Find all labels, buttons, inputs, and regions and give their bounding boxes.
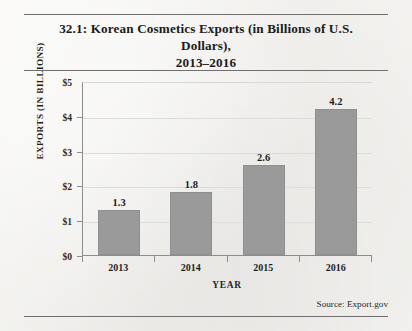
bar-2016[interactable] xyxy=(315,109,357,255)
figure-container: 32.1: Korean Cosmetics Exports (in Billi… xyxy=(0,0,412,331)
y-tick-label-3: $3 xyxy=(46,147,72,158)
title-rule-bottom xyxy=(24,70,388,71)
y-tick-label-2: $2 xyxy=(46,181,72,192)
y-tick-label-4: $4 xyxy=(46,112,72,123)
x-tick-label-2016: 2016 xyxy=(300,262,373,273)
x-axis-tick-labels: 2013 2014 2015 2016 xyxy=(82,262,372,273)
bar-slot-2013: 1.3 xyxy=(83,83,155,255)
bar-slot-2016: 4.2 xyxy=(300,83,372,255)
y-axis-title: EXPORTS (IN BILLIONS) xyxy=(35,21,45,181)
y-tick-label-1: $1 xyxy=(46,216,72,227)
bar-slot-2014: 1.8 xyxy=(155,83,227,255)
bar-slot-2015: 2.6 xyxy=(228,83,300,255)
x-tick-label-2014: 2014 xyxy=(155,262,228,273)
bar-series: 1.3 1.8 2.6 4.2 xyxy=(83,83,372,255)
bar-value-2015: 2.6 xyxy=(228,152,300,163)
title-rule-top xyxy=(24,14,388,15)
bar-2014[interactable] xyxy=(170,192,212,255)
figure-title: 32.1: Korean Cosmetics Exports (in Billi… xyxy=(34,20,378,71)
plot-area: 1.3 1.8 2.6 4.2 xyxy=(82,82,372,256)
bar-value-2014: 1.8 xyxy=(155,179,227,190)
bar-value-2016: 4.2 xyxy=(300,96,372,107)
x-axis-title: YEAR xyxy=(82,280,372,290)
bar-2013[interactable] xyxy=(98,210,140,255)
figure-title-line-2: 2013–2016 xyxy=(34,54,378,71)
y-tick-label-5: $5 xyxy=(46,77,72,88)
figure-title-line-1: 32.1: Korean Cosmetics Exports (in Billi… xyxy=(34,20,378,54)
figure-rule-bottom xyxy=(24,316,388,317)
x-tick-label-2015: 2015 xyxy=(227,262,300,273)
bar-value-2013: 1.3 xyxy=(83,197,155,208)
x-tick-label-2013: 2013 xyxy=(82,262,155,273)
bar-2015[interactable] xyxy=(243,165,285,256)
source-attribution: Source: Export.gov xyxy=(317,299,388,309)
y-tick-label-0: $0 xyxy=(46,251,72,262)
